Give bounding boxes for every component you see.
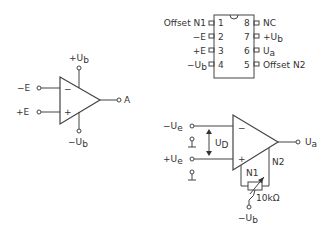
pin-number: 6 bbox=[244, 46, 250, 56]
circuit-output-terminal bbox=[296, 140, 300, 144]
op-amp-diagram: − + −E +E +Ub −Ub A 1 2 3 4 Of bbox=[0, 0, 334, 236]
circuit-plus-sign: + bbox=[238, 154, 246, 164]
circuit-noninverting-terminal bbox=[190, 157, 194, 161]
pin-label: −Ub bbox=[187, 60, 207, 72]
circuit-supply-negative-terminal bbox=[247, 205, 251, 209]
pin-number: 2 bbox=[218, 32, 224, 42]
inverting-input-terminal bbox=[37, 86, 41, 90]
circuit-supply-negative-label: −Ub bbox=[238, 213, 258, 225]
op-amp-symbol: − + −E +E +Ub −Ub A bbox=[16, 53, 131, 149]
output-terminal bbox=[117, 98, 121, 102]
circuit-noninverting-label: +Ue bbox=[163, 154, 183, 166]
pin-number: 4 bbox=[218, 60, 224, 70]
symbol-output-label: A bbox=[124, 95, 131, 105]
pin-label: Offset N2 bbox=[263, 60, 305, 70]
pin-number: 7 bbox=[244, 32, 250, 42]
differential-voltage-label: UD bbox=[215, 138, 229, 150]
supply-negative-terminal bbox=[77, 129, 81, 133]
potentiometer-icon bbox=[248, 182, 262, 190]
pin-label: −E bbox=[193, 32, 207, 42]
pin-number: 5 bbox=[244, 60, 250, 70]
symbol-minus-sign: − bbox=[64, 84, 72, 94]
pin-label: Offset N1 bbox=[164, 18, 206, 28]
noninverting-input-terminal bbox=[37, 110, 41, 114]
offset-n1-label: N1 bbox=[246, 168, 258, 178]
offset-null-circuit: − + −Ue +Ue UD Ua bbox=[163, 115, 317, 225]
pin-label: NC bbox=[263, 18, 276, 28]
circuit-inverting-label: −Ue bbox=[163, 121, 183, 133]
dip8-pinout: 1 2 3 4 Offset N1 −E +E −Ub 8 7 6 5 NC +… bbox=[164, 15, 306, 78]
symbol-plus-sign: + bbox=[64, 107, 72, 117]
potentiometer-value: 10kΩ bbox=[256, 193, 280, 203]
symbol-supply-positive-label: +Ub bbox=[69, 53, 89, 65]
supply-positive-terminal bbox=[77, 66, 81, 70]
differential-voltage-arrow-icon bbox=[206, 129, 212, 156]
circuit-output-label: Ua bbox=[305, 137, 317, 149]
pin-label: Ua bbox=[263, 46, 275, 58]
pin-number: 3 bbox=[218, 46, 224, 56]
circuit-inverting-terminal bbox=[190, 124, 194, 128]
offset-n2-label: N2 bbox=[272, 157, 284, 167]
ic-notch bbox=[230, 15, 238, 19]
ground-icon bbox=[188, 170, 196, 180]
symbol-supply-negative-label: −Ub bbox=[68, 137, 88, 149]
pin-label: +E bbox=[193, 46, 207, 56]
symbol-noninverting-input-label: +E bbox=[16, 107, 30, 117]
pin-number: 1 bbox=[218, 18, 224, 28]
pin-number: 8 bbox=[244, 18, 250, 28]
symbol-inverting-input-label: −E bbox=[17, 83, 31, 93]
ground-icon bbox=[188, 137, 196, 147]
circuit-minus-sign: − bbox=[238, 123, 246, 133]
pin-label: +Ub bbox=[263, 32, 283, 44]
